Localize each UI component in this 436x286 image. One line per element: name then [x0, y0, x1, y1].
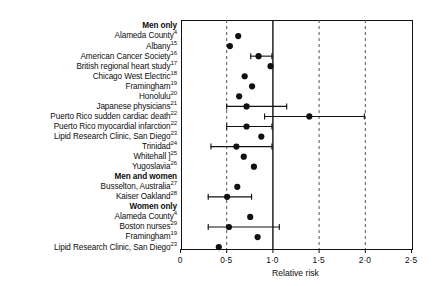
data-point-marker	[224, 194, 230, 200]
reference-superscript: 24	[171, 140, 177, 146]
reference-superscript: 19	[171, 231, 177, 237]
forest-plot-figure: Men onlyAlameda County4Albany15American …	[0, 0, 436, 286]
study-label: Lipid Research Clinic, San Diego23	[54, 132, 177, 141]
study-label: Framingham19	[126, 232, 177, 241]
reference-superscript: 26	[171, 160, 177, 166]
reference-superscript: 28	[171, 191, 177, 197]
data-point-marker	[243, 123, 249, 129]
reference-superscript: 25	[171, 150, 177, 156]
study-label: Puerto Rico sudden cardiac death22	[50, 112, 177, 121]
data-point-marker	[247, 214, 253, 220]
group-heading: Women only	[129, 202, 177, 211]
reference-superscript: 20	[171, 90, 177, 96]
confidence-interval	[264, 113, 365, 119]
data-point-marker	[255, 53, 261, 59]
study-label: Yugoslavia26	[132, 162, 177, 171]
reference-superscript: 17	[171, 60, 177, 66]
x-tick-label: 0·5	[206, 255, 246, 265]
reference-superscript: 18	[171, 70, 177, 76]
study-label: British regional heart study17	[76, 62, 177, 71]
study-label: Kaiser Oakland28	[116, 192, 177, 201]
study-label: Lipid Research Clinic, San Diego23	[54, 243, 177, 252]
data-point-marker	[233, 144, 239, 150]
reference-superscript: 22	[171, 110, 177, 116]
data-point-marker	[234, 184, 240, 190]
confidence-interval	[208, 224, 280, 230]
confidence-interval	[226, 103, 287, 109]
study-label: American Cancer Society16	[80, 52, 177, 61]
data-point-marker	[255, 234, 261, 240]
x-tick-label: 1·5	[299, 255, 339, 265]
x-tick-label: 2·0	[345, 255, 385, 265]
data-point-marker	[242, 73, 248, 79]
reference-superscript: 21	[171, 100, 177, 106]
x-tick-label: 2·5	[391, 255, 431, 265]
data-point-marker	[241, 154, 247, 160]
study-label: Puerto Rico myocardial infarction22	[54, 122, 177, 131]
plot-frame	[182, 21, 413, 250]
reference-superscript: 15	[171, 40, 177, 46]
data-point-marker	[243, 103, 249, 109]
data-point-marker	[226, 224, 232, 230]
data-point-marker	[235, 33, 241, 39]
reference-superscript: 16	[171, 50, 177, 56]
data-point-marker	[306, 113, 312, 119]
x-axis-title: Relative risk	[0, 268, 436, 278]
study-label: Chicago West Electric18	[93, 72, 177, 81]
study-label: Boston nurses29	[119, 222, 177, 231]
data-point-marker	[216, 244, 222, 250]
data-point-marker	[236, 93, 242, 99]
reference-superscript: 29	[171, 221, 177, 227]
data-point-marker	[251, 164, 257, 170]
data-point-marker	[249, 83, 255, 89]
study-label: Framingham19	[126, 82, 177, 91]
data-point-marker	[267, 63, 273, 69]
study-label: Busselton, Australia27	[101, 182, 177, 191]
reference-superscript: 23	[171, 241, 177, 247]
group-heading: Men and women	[115, 172, 177, 181]
reference-superscript: 22	[171, 120, 177, 126]
reference-superscript: 4	[174, 211, 177, 217]
x-tick-label: 1·0	[252, 255, 292, 265]
data-point-marker	[258, 133, 264, 139]
reference-superscript: 19	[171, 80, 177, 86]
study-label: Japanese physicians21	[96, 102, 177, 111]
reference-superscript: 23	[171, 130, 177, 136]
data-point-marker	[227, 43, 233, 49]
confidence-interval	[210, 144, 272, 150]
reference-superscript: 4	[174, 30, 177, 36]
reference-superscript: 27	[171, 180, 177, 186]
x-tick-label: 0	[160, 255, 200, 265]
group-heading: Men only	[142, 21, 177, 30]
study-label: Alameda County4	[115, 31, 177, 40]
study-label: Alameda County4	[115, 212, 177, 221]
